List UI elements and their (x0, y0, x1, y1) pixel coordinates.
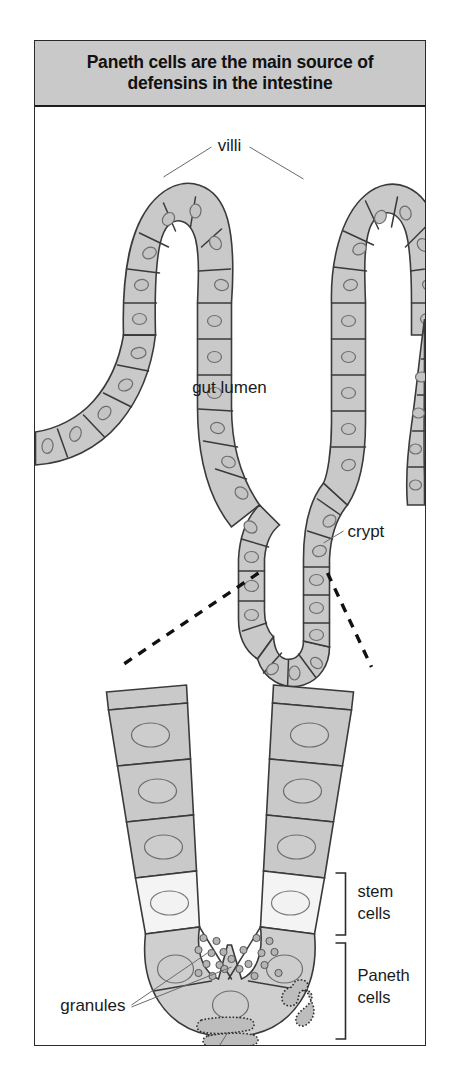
figure-title-bar: Paneth cells are the main source of defe… (35, 41, 425, 107)
figure-root: Paneth cells are the main source of defe… (0, 0, 461, 1081)
magnify-guide-left (120, 573, 259, 667)
villus-left-partial (36, 335, 156, 465)
right-nucleus-1 (291, 723, 329, 747)
stem-cells-bracket-group: stem cells (336, 873, 394, 935)
stem-cells-label-line1: stem (358, 882, 394, 900)
paneth-cells-bracket-group: Paneth cells (336, 943, 410, 1039)
paneth-nucleus-bottom (213, 991, 249, 1019)
paneth-nucleus-right (267, 955, 303, 983)
figure-frame: Paneth cells are the main source of defe… (34, 40, 426, 1046)
villi-leader-left (164, 147, 212, 177)
figure-title: Paneth cells are the main source of defe… (73, 52, 388, 95)
magnify-guide-right (328, 573, 372, 667)
paneth-cells-label-line1: Paneth (358, 966, 410, 984)
left-nucleus-3 (145, 835, 183, 859)
figure-title-line-2: defensins in the intestine (128, 73, 333, 93)
crypt-right-wall (304, 483, 348, 647)
villi-label: villi (218, 136, 242, 155)
stem-cells-label-line2: cells (358, 904, 391, 922)
left-stem-nucleus (151, 891, 189, 915)
villi-leader-right (250, 147, 304, 179)
magnified-crypt-right-column (261, 685, 354, 934)
figure-title-line-1: Paneth cells are the main source of (87, 52, 374, 72)
upper-panel-group: villi gut lumen crypt (36, 136, 426, 688)
rough-er-bottom-lower (203, 1033, 258, 1045)
granules-label: granules (60, 996, 125, 1015)
paneth-nucleus-left (158, 955, 194, 983)
lower-panel-group: stem cells Paneth cells granules rough e… (60, 685, 410, 1045)
paneth-cells-bracket (336, 943, 346, 1039)
left-nucleus-1 (132, 723, 170, 747)
villus-right-partial (407, 319, 425, 505)
gut-lumen-label: gut lumen (192, 378, 267, 397)
paneth-cell-zone (145, 927, 315, 1045)
intestine-diagram-svg: villi gut lumen crypt (35, 107, 425, 1045)
crypt-label: crypt (348, 522, 385, 541)
diagram-canvas: villi gut lumen crypt (35, 107, 425, 1045)
left-nucleus-2 (139, 779, 177, 803)
magnified-crypt-left-column (107, 685, 200, 934)
rough-er-bottom-upper (197, 1017, 254, 1033)
right-nucleus-2 (284, 779, 322, 803)
paneth-cells-label-line2: cells (358, 988, 391, 1006)
right-nucleus-3 (278, 835, 316, 859)
stem-cells-bracket (336, 873, 346, 935)
right-stem-nucleus (272, 891, 310, 915)
